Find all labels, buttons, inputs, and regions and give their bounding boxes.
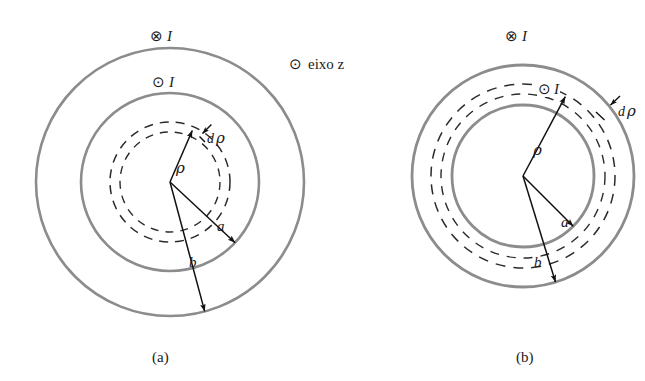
panel-a-caption: (a) — [152, 350, 169, 365]
axis-key-label: eixo z — [308, 56, 344, 72]
panel-a-inner-current-I: I — [169, 74, 174, 90]
panel-a-drho-label: dρ — [207, 131, 225, 146]
panel-b-d-prefix: d — [618, 104, 625, 119]
panel-b-drho-rho: ρ — [627, 102, 636, 120]
cross-in-circle-icon: ⊗ — [505, 28, 518, 44]
panel-b-b-label: b — [534, 255, 542, 270]
panel-a-inner-current-label: ⊙I — [152, 74, 174, 90]
panel-b-outer-current-I: I — [522, 28, 527, 44]
panel-b-inner-current-I: I — [554, 81, 559, 97]
panel-a-b-label: b — [189, 255, 197, 270]
panel-b-a-label: a — [561, 215, 569, 230]
panel-b-outer-current-label: ⊗I — [505, 28, 527, 44]
panel-b-caption: (b) — [516, 350, 534, 365]
panel-a-drho-rho: ρ — [216, 129, 225, 147]
panel-b-rho-label: ρ — [533, 143, 542, 158]
panel-a-drho-tick — [200, 137, 206, 143]
panel-a-d-prefix: d — [207, 131, 214, 146]
panel-b-group — [412, 65, 634, 287]
panel-b-inner-current-label: ⊙I — [537, 81, 560, 97]
cross-in-circle-icon: ⊗ — [150, 28, 163, 44]
dot-in-circle-icon: ⊙ — [152, 74, 165, 90]
panel-a-outer-current-I: I — [167, 28, 172, 44]
panel-a-b-arrow — [170, 182, 205, 311]
panel-a-rho-label: ρ — [176, 161, 185, 176]
panel-a-a-arrow — [170, 182, 235, 243]
figure-canvas: ⊗I ⊙I ⊙eixo z ρ a b dρ (a) ⊗I ⊙I ρ a b d… — [0, 0, 645, 381]
dot-in-circle-icon: ⊙ — [538, 81, 551, 97]
axis-key: ⊙eixo z — [289, 56, 344, 72]
panel-a-outer-current-label: ⊗I — [150, 28, 172, 44]
panel-a-a-label: a — [217, 219, 225, 234]
panel-b-drho-label: dρ — [618, 104, 636, 119]
panel-b-drho-tick — [596, 112, 605, 120]
axis-dot-in-circle-icon: ⊙ — [289, 56, 302, 72]
